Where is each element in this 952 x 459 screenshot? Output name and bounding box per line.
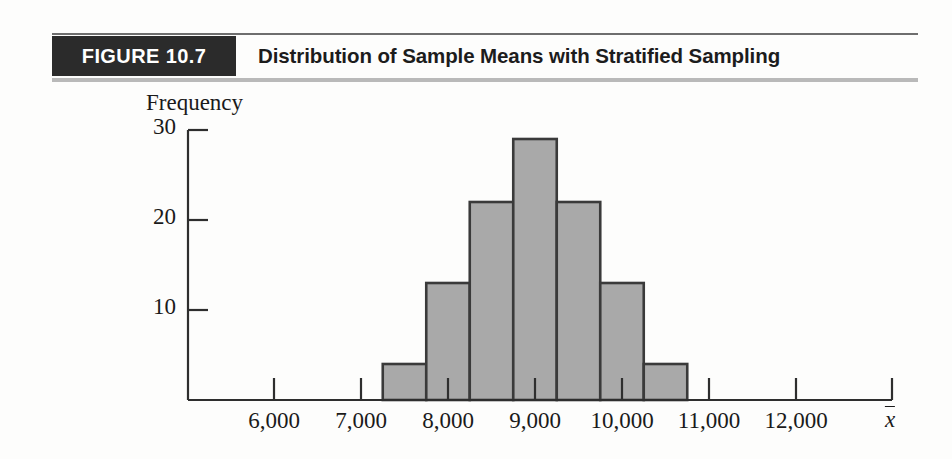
histogram-bar [383, 364, 427, 400]
histogram-bar [644, 364, 688, 400]
x-axis-tick-label: 10,000 [590, 408, 653, 434]
x-axis-tick-label: 9,000 [509, 408, 561, 434]
y-axis-tick-label: 30 [132, 114, 176, 140]
histogram-bar [513, 139, 557, 400]
x-bar-symbol: x [885, 406, 895, 431]
x-axis-variable-label: x [885, 406, 895, 433]
bars-group [383, 139, 688, 400]
figure-container: FIGURE 10.7 Distribution of Sample Means… [0, 0, 952, 459]
histogram-bar [470, 202, 514, 400]
y-axis-tick-label: 10 [132, 294, 176, 320]
x-axis-tick-label: 8,000 [422, 408, 474, 434]
x-axis-tick-label: 11,000 [678, 408, 740, 434]
x-axis-tick-label: 6,000 [248, 408, 300, 434]
histogram-bar [557, 202, 601, 400]
x-axis-tick-label: 12,000 [764, 408, 827, 434]
y-axis-tick-label: 20 [132, 204, 176, 230]
x-axis-tick-label: 7,000 [335, 408, 387, 434]
